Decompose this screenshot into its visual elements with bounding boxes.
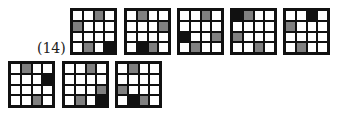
grid-cell <box>244 43 253 52</box>
grid-cell <box>191 43 200 52</box>
grid-cell <box>127 43 136 52</box>
grid-cell <box>233 11 242 20</box>
grid-cell <box>286 22 295 31</box>
grid-cell <box>265 22 274 31</box>
grid-cell <box>180 33 189 42</box>
grid-cell <box>191 33 200 42</box>
pattern-grid-7 <box>62 61 109 108</box>
grid-cell <box>297 43 306 52</box>
grid-cell <box>191 11 200 20</box>
grid-cell <box>105 33 114 42</box>
grid-cell <box>149 33 158 42</box>
figure-label: (14) <box>37 40 66 56</box>
grid-cell <box>255 11 264 20</box>
grid-cell <box>33 64 42 73</box>
grid-cell <box>212 22 221 31</box>
grid-cell <box>308 43 317 52</box>
grid-cell <box>11 64 20 73</box>
grid-cell <box>140 86 149 95</box>
pattern-grid-5 <box>283 8 330 55</box>
grid-cell <box>140 75 149 84</box>
grid-cell <box>118 96 127 105</box>
grid-cell <box>73 33 82 42</box>
grid-cell <box>212 33 221 42</box>
grid-cell <box>297 22 306 31</box>
grid-cell <box>191 22 200 31</box>
grid-cell <box>97 64 106 73</box>
grid-cell <box>265 43 274 52</box>
grid-cell <box>11 96 20 105</box>
grid-cell <box>127 11 136 20</box>
grid-cell <box>84 33 93 42</box>
grid-cell <box>129 96 138 105</box>
grid-cell <box>244 22 253 31</box>
grid-cell <box>159 33 168 42</box>
grid-cell <box>127 22 136 31</box>
grid-cell <box>43 75 52 84</box>
grid-cell <box>180 11 189 20</box>
grid-cell <box>286 11 295 20</box>
grid-cell <box>233 22 242 31</box>
grid-cell <box>233 43 242 52</box>
grid-cell <box>84 43 93 52</box>
grid-cell <box>87 96 96 105</box>
grid-cell <box>73 22 82 31</box>
grid-cell <box>265 33 274 42</box>
grid-cell <box>297 33 306 42</box>
grid-cell <box>11 86 20 95</box>
grid-cell <box>297 11 306 20</box>
grid-cell <box>22 64 31 73</box>
grid-cell <box>118 64 127 73</box>
grid-cell <box>129 64 138 73</box>
grid-cell <box>43 96 52 105</box>
grid-cell <box>159 22 168 31</box>
grid-cell <box>138 43 147 52</box>
grid-cell <box>73 43 82 52</box>
grid-cell <box>33 96 42 105</box>
grid-cell <box>150 86 159 95</box>
grid-cell <box>87 75 96 84</box>
grid-cell <box>129 75 138 84</box>
grid-cell <box>118 75 127 84</box>
grid-cell <box>84 22 93 31</box>
grid-cell <box>65 96 74 105</box>
grid-cell <box>150 75 159 84</box>
pattern-grid-2 <box>124 8 171 55</box>
grid-cell <box>11 75 20 84</box>
grid-cell <box>95 22 104 31</box>
grid-cell <box>95 11 104 20</box>
grid-cell <box>43 64 52 73</box>
pattern-grid-1 <box>70 8 117 55</box>
grid-cell <box>127 33 136 42</box>
grid-cell <box>318 43 327 52</box>
grid-cell <box>255 43 264 52</box>
pattern-grid-6 <box>8 61 55 108</box>
grid-cell <box>286 33 295 42</box>
grid-cell <box>105 11 114 20</box>
grid-cell <box>95 33 104 42</box>
grid-cell <box>138 22 147 31</box>
grid-cell <box>140 96 149 105</box>
grid-cell <box>22 86 31 95</box>
pattern-grid-8 <box>115 61 162 108</box>
grid-cell <box>73 11 82 20</box>
grid-cell <box>180 43 189 52</box>
grid-cell <box>149 43 158 52</box>
grid-cell <box>76 75 85 84</box>
grid-cell <box>233 33 242 42</box>
grid-cell <box>318 22 327 31</box>
grid-cell <box>308 22 317 31</box>
grid-cell <box>244 33 253 42</box>
grid-cell <box>65 64 74 73</box>
grid-cell <box>159 43 168 52</box>
grid-cell <box>33 75 42 84</box>
grid-cell <box>318 33 327 42</box>
grid-cell <box>65 86 74 95</box>
grid-cell <box>308 11 317 20</box>
grid-cell <box>22 75 31 84</box>
grid-cell <box>118 86 127 95</box>
grid-cell <box>105 22 114 31</box>
grid-cell <box>97 96 106 105</box>
grid-cell <box>87 64 96 73</box>
grid-cell <box>255 33 264 42</box>
